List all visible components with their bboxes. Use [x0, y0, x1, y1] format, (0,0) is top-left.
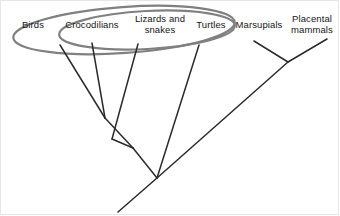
branch-root-tail [118, 178, 157, 212]
reptilia-grouping-oval [12, 0, 237, 61]
taxon-label-marsupials: Marsupials [230, 19, 288, 30]
branch-lepidosaur-join [112, 139, 133, 148]
cladogram-figure: Birds Crocodilians Lizards and snakes Tu… [0, 0, 340, 216]
branch-reptile-stem [133, 148, 157, 178]
taxon-label-lizards-and-snakes: Lizards and snakes [126, 13, 194, 35]
grouping-ovals-layer [12, 0, 237, 61]
branch-placental-mammals [288, 39, 327, 62]
branch-amniote-stem [157, 62, 288, 178]
taxon-label-birds: Birds [8, 19, 58, 30]
taxon-label-turtles: Turtles [186, 19, 236, 30]
branch-lizards-snakes [112, 44, 138, 139]
branch-marsupials [254, 41, 288, 62]
branch-turtles [157, 45, 199, 178]
branch-archosaur-stem [105, 118, 133, 148]
branch-lines-layer [60, 39, 327, 212]
taxon-label-crocodilians: Crocodilians [58, 19, 126, 30]
taxon-label-placental-mammals: Placental mammals [285, 13, 339, 35]
